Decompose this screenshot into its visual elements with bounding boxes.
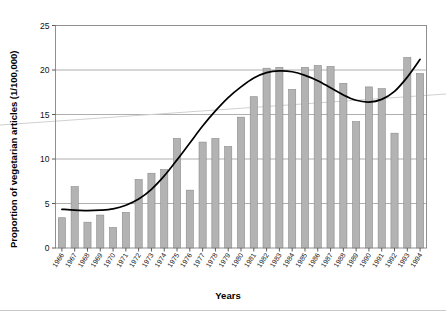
bar-1991 [378, 89, 385, 248]
bar-1968 [84, 222, 91, 248]
y-tick-label-0: 0 [45, 243, 50, 253]
bar-1970 [109, 228, 116, 248]
bar-1984 [289, 90, 296, 248]
bar-1976 [186, 190, 193, 248]
bar-1985 [301, 67, 308, 248]
bar-1975 [173, 139, 180, 248]
bar-1974 [161, 170, 168, 248]
bar-1989 [353, 122, 360, 248]
y-tick-label-20: 20 [40, 65, 50, 75]
y-axis-title: Proportion of vegetarian articles (1/100… [8, 51, 19, 248]
bar-1988 [340, 83, 347, 248]
bar-1982 [263, 68, 270, 248]
vegetarian-articles-bar-chart: 0510152025 19661967196819691970197119721… [0, 0, 446, 313]
bar-1993 [404, 58, 411, 248]
bar-1973 [148, 173, 155, 248]
bar-1971 [122, 212, 129, 248]
bar-1981 [250, 97, 257, 248]
chart-figure: 0510152025 19661967196819691970197119721… [0, 0, 446, 313]
bar-1992 [391, 133, 398, 248]
bar-1977 [199, 142, 206, 248]
bar-1980 [237, 117, 244, 248]
bar-1967 [71, 187, 78, 248]
bar-1969 [97, 215, 104, 248]
y-tick-label-10: 10 [40, 154, 50, 164]
x-axis-title: Years [215, 290, 240, 301]
bar-1990 [365, 87, 372, 248]
bottom-divider [0, 310, 446, 311]
bar-1986 [314, 66, 321, 248]
bar-1983 [276, 67, 283, 248]
bar-1994 [417, 74, 424, 248]
bar-1966 [58, 218, 65, 248]
bar-1972 [135, 179, 142, 248]
bar-1987 [327, 66, 334, 248]
bar-1978 [212, 139, 219, 248]
y-tick-label-15: 15 [40, 110, 50, 120]
y-tick-label-25: 25 [40, 21, 50, 31]
y-tick-label-5: 5 [45, 199, 50, 209]
bar-1979 [225, 147, 232, 248]
